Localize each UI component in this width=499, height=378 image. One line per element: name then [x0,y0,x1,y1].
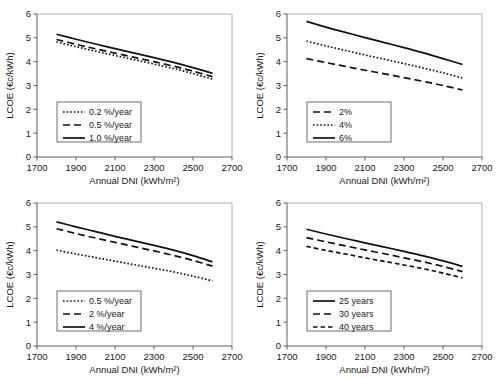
x-tick-label: 1700 [276,162,297,173]
legend-label-2: 6% [339,133,352,143]
chart-panel-bottom-right: 0123456170019002100230025002700Annual DN… [250,189,499,378]
series-line-0 [57,42,213,79]
y-axis-title: LCOE (€c/kWh) [4,52,15,119]
y-tick-label: 0 [26,151,31,162]
y-tick-label: 3 [26,80,31,91]
legend-label-0: 0.2 %/year [89,107,132,117]
x-axis-title: Annual DNI (kWh/m²) [89,364,179,375]
y-tick-label: 5 [276,221,281,232]
x-tick-label: 2500 [432,162,453,173]
y-tick-label: 1 [276,317,281,328]
y-tick-label: 3 [276,269,281,280]
x-tick-label: 2100 [104,162,125,173]
x-axis-title: Annual DNI (kWh/m²) [339,364,429,375]
x-tick-label: 2500 [182,351,203,362]
y-tick-label: 1 [276,128,281,139]
series-line-2 [307,246,463,277]
y-tick-label: 1 [26,128,31,139]
x-tick-label: 1700 [276,351,297,362]
x-tick-label: 2100 [354,351,375,362]
x-tick-label: 1700 [26,162,47,173]
x-tick-label: 2500 [182,162,203,173]
x-tick-label: 2100 [104,351,125,362]
y-tick-label: 2 [276,293,281,304]
y-tick-label: 2 [26,104,31,115]
y-axis-title: LCOE (€c/kWh) [254,52,265,119]
legend-label-1: 30 years [339,309,374,319]
y-tick-label: 3 [26,269,31,280]
series-line-2 [57,34,213,73]
legend-label-1: 0.5 %/year [89,120,132,130]
x-tick-label: 2300 [393,351,414,362]
series-line-2 [307,21,463,64]
series-line-1 [57,229,213,266]
y-axis-title: LCOE (€c/kWh) [254,241,265,308]
chart-panel-top-right: 0123456170019002100230025002700Annual DN… [250,0,499,189]
x-tick-label: 1900 [65,351,86,362]
legend-label-0: 25 years [339,296,374,306]
series-line-1 [307,41,463,78]
y-tick-label: 6 [26,8,31,19]
x-tick-label: 2300 [143,351,164,362]
legend-label-0: 2% [339,107,352,117]
y-tick-label: 6 [26,197,31,208]
x-tick-label: 1900 [65,162,86,173]
y-tick-label: 0 [276,151,281,162]
chart-svg-top-right: 0123456170019002100230025002700Annual DN… [250,0,499,189]
y-tick-label: 4 [276,56,281,67]
x-tick-label: 1900 [315,162,336,173]
x-axis-title: Annual DNI (kWh/m²) [339,175,429,186]
y-tick-label: 2 [26,293,31,304]
series-line-0 [307,59,463,90]
x-tick-label: 1700 [26,351,47,362]
x-tick-label: 2500 [432,351,453,362]
y-tick-label: 4 [276,245,281,256]
series-line-2 [57,222,213,262]
x-tick-label: 2300 [393,162,414,173]
chart-panel-bottom-left: 0123456170019002100230025002700Annual DN… [0,189,250,378]
chart-svg-bottom-right: 0123456170019002100230025002700Annual DN… [250,189,499,378]
legend-label-2: 4 %/year [89,322,125,332]
legend-label-2: 40 years [339,322,374,332]
x-axis-title: Annual DNI (kWh/m²) [89,175,179,186]
y-tick-label: 6 [276,197,281,208]
y-tick-label: 3 [276,80,281,91]
x-tick-label: 2300 [143,162,164,173]
y-tick-label: 5 [276,32,281,43]
series-line-1 [57,40,213,77]
y-tick-label: 5 [26,32,31,43]
chart-svg-bottom-left: 0123456170019002100230025002700Annual DN… [0,189,250,378]
legend-label-1: 4% [339,120,352,130]
legend-label-2: 1.0 %/year [89,133,132,143]
y-tick-label: 4 [26,245,31,256]
x-tick-label: 2100 [354,162,375,173]
y-axis-title: LCOE (€c/kWh) [4,241,15,308]
legend-label-0: 0.5 %/year [89,296,132,306]
x-tick-label: 1900 [315,351,336,362]
series-line-1 [307,238,463,272]
x-tick-label: 2700 [221,351,242,362]
y-tick-label: 0 [26,340,31,351]
x-tick-label: 2700 [471,162,492,173]
x-tick-label: 2700 [221,162,242,173]
y-tick-label: 0 [276,340,281,351]
figure-four-panel-lcoe-charts: 0123456170019002100230025002700Annual DN… [0,0,499,378]
y-tick-label: 4 [26,56,31,67]
x-tick-label: 2700 [471,351,492,362]
y-tick-label: 1 [26,317,31,328]
y-tick-label: 6 [276,8,281,19]
y-tick-label: 5 [26,221,31,232]
chart-svg-top-left: 0123456170019002100230025002700Annual DN… [0,0,250,189]
y-tick-label: 2 [276,104,281,115]
legend-label-1: 2 %/year [89,309,125,319]
chart-panel-top-left: 0123456170019002100230025002700Annual DN… [0,0,250,189]
